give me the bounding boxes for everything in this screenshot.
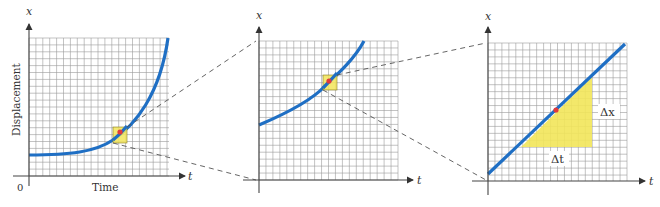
delta-t-label: Δt bbox=[551, 152, 564, 166]
panel-1-y-title: Displacement bbox=[10, 62, 22, 136]
panel-3-x-symbol: x bbox=[485, 10, 492, 23]
panel-2-curve bbox=[259, 41, 364, 125]
connector-1-bottom bbox=[113, 143, 256, 180]
connector-2-bottom bbox=[323, 90, 486, 180]
figure: x t 0 Time Displacement x t Δx Δt x t bbox=[0, 0, 660, 207]
panel-1-origin-label: 0 bbox=[17, 182, 23, 193]
panel-2-t-symbol: t bbox=[417, 174, 422, 187]
panel-2-grid bbox=[259, 41, 398, 180]
panel-3-t-symbol: t bbox=[649, 175, 654, 188]
panel-1-point bbox=[117, 129, 122, 134]
delta-x-label: Δx bbox=[600, 105, 615, 119]
panel-2: x t bbox=[243, 9, 422, 193]
panel-2-x-symbol: x bbox=[256, 9, 263, 22]
panel-1: x t 0 Time Displacement bbox=[10, 5, 193, 193]
panel-3: Δx Δt x t bbox=[472, 10, 654, 195]
panel-1-x-symbol: x bbox=[26, 5, 33, 18]
panel-1-x-title: Time bbox=[92, 181, 119, 193]
zoom-diagram: x t 0 Time Displacement x t Δx Δt x t bbox=[0, 0, 660, 207]
panel-2-point bbox=[326, 78, 331, 83]
panel-1-t-symbol: t bbox=[188, 170, 193, 183]
panel-3-point bbox=[553, 107, 558, 112]
